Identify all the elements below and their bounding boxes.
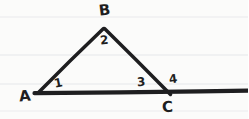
vertex-label-c: C — [162, 100, 174, 116]
angle-label-4: 4 — [168, 72, 178, 85]
angle-label-3: 3 — [137, 76, 146, 89]
segment-ab — [39, 29, 104, 93]
diagram-canvas: B 2 A 1 3 4 C — [0, 0, 248, 119]
vertex-label-a: A — [18, 89, 31, 105]
angle-label-2: 2 — [99, 34, 109, 47]
triangle-figure — [0, 0, 248, 119]
segment-ac-extended — [35, 91, 249, 94]
vertex-label-b: B — [98, 2, 111, 18]
